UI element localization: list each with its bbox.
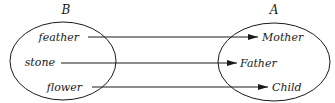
- element-father: Father: [239, 57, 277, 70]
- set-a-label: A: [269, 3, 279, 17]
- element-stone: stone: [25, 56, 56, 69]
- element-flower: flower: [46, 81, 83, 94]
- mapping-diagram: B feather stone flower A Mother Father C…: [0, 0, 335, 103]
- element-feather: feather: [38, 31, 80, 44]
- element-mother: Mother: [261, 31, 304, 44]
- element-child: Child: [272, 81, 302, 94]
- set-b-label: B: [61, 3, 71, 17]
